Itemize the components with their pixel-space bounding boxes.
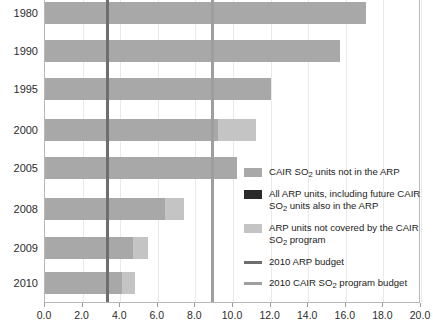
x-axis-tick-mark (232, 303, 233, 307)
bar-segment (133, 237, 148, 259)
x-axis-tick-label: 20.0 (400, 309, 433, 321)
x-axis-tick-label: 2.0 (62, 309, 102, 321)
y-axis-tick-label: 2008 (0, 203, 38, 215)
reference-line (211, 0, 214, 302)
legend-item: All ARP units, including future CAIRSO2 … (244, 188, 432, 213)
legend-item: 2010 CAIR SO2 program budget (244, 277, 432, 290)
bar-row (45, 78, 271, 100)
bar-segment (45, 2, 366, 24)
x-axis-tick-label: 4.0 (99, 309, 139, 321)
y-axis-tick-label: 1980 (0, 7, 38, 19)
bar-segment (122, 272, 135, 294)
bar-segment (45, 157, 237, 179)
bar-row (45, 198, 184, 220)
bar-row (45, 119, 256, 141)
x-axis-tick-mark (345, 303, 346, 307)
x-axis-tick-mark (44, 303, 45, 307)
x-axis-tick-label: 18.0 (362, 309, 402, 321)
y-axis-tick-label: 1995 (0, 83, 38, 95)
x-axis-tick-mark (382, 303, 383, 307)
x-axis-tick-mark (194, 303, 195, 307)
legend-line-swatch (244, 282, 262, 285)
stacked-bar-chart: 19801990199520002005200820092010 0.02.04… (0, 0, 433, 335)
bar-segment (45, 237, 133, 259)
bar-segment (45, 272, 122, 294)
chart-legend: CAIR SO2 units not in the ARPAll ARP uni… (244, 166, 432, 299)
y-axis-tick-label: 2010 (0, 277, 38, 289)
x-axis-tick-label: 12.0 (250, 309, 290, 321)
x-axis-tick-mark (82, 303, 83, 307)
y-axis-tick-label: 1990 (0, 45, 38, 57)
bar-row (45, 272, 135, 294)
x-axis-tick-mark (157, 303, 158, 307)
bar-row (45, 237, 148, 259)
legend-item-label: 2010 ARP budget (269, 256, 344, 268)
legend-item-label: All ARP units, including future CAIRSO2 … (269, 188, 420, 213)
x-axis-tick-label: 10.0 (212, 309, 252, 321)
bar-segment (45, 78, 271, 100)
x-axis-tick-mark (270, 303, 271, 307)
bar-segment (218, 119, 256, 141)
x-axis-tick-label: 6.0 (137, 309, 177, 321)
legend-item-label: CAIR SO2 units not in the ARP (269, 166, 400, 179)
x-axis-tick-label: 14.0 (287, 309, 327, 321)
x-axis-tick-label: 16.0 (325, 309, 365, 321)
bar-segment (165, 198, 184, 220)
y-axis-tick-label: 2005 (0, 162, 38, 174)
x-axis-tick-mark (420, 303, 421, 307)
x-axis-tick-mark (307, 303, 308, 307)
legend-line-swatch (244, 261, 262, 264)
reference-line (106, 0, 109, 302)
y-axis-tick-label: 2000 (0, 124, 38, 136)
bar-segment (45, 40, 340, 62)
y-axis-tick-label: 2009 (0, 242, 38, 254)
legend-item: ARP units not covered by the CAIRSO2 pro… (244, 222, 432, 247)
legend-color-swatch (244, 190, 262, 199)
bar-row (45, 40, 340, 62)
bar-row (45, 157, 237, 179)
x-axis-tick-label: 0.0 (24, 309, 64, 321)
legend-item-label: 2010 CAIR SO2 program budget (269, 277, 407, 290)
legend-item: CAIR SO2 units not in the ARP (244, 166, 432, 179)
legend-item-label: ARP units not covered by the CAIRSO2 pro… (269, 222, 419, 247)
legend-item: 2010 ARP budget (244, 256, 432, 268)
legend-color-swatch (244, 168, 262, 177)
x-axis-tick-label: 8.0 (174, 309, 214, 321)
legend-color-swatch (244, 224, 262, 233)
bar-row (45, 2, 366, 24)
bar-segment (45, 119, 218, 141)
x-axis-tick-mark (119, 303, 120, 307)
